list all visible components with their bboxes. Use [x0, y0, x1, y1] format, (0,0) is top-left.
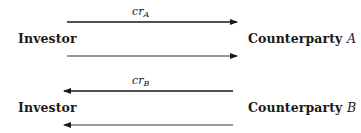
label-cr-a: crA	[132, 5, 149, 19]
counterparty-label: Counterparty	[248, 100, 342, 115]
investor-node-b: Investor	[18, 100, 77, 115]
counterparty-b-node: Counterparty B	[248, 100, 356, 115]
investor-node-a: Investor	[18, 31, 77, 46]
counterparty-var: B	[347, 100, 356, 115]
label-main: cr	[132, 5, 143, 18]
counterparty-label: Counterparty	[248, 31, 342, 46]
label-main: cr	[132, 74, 143, 87]
counterparty-a-node: Counterparty A	[248, 31, 356, 46]
counterparty-var: A	[347, 31, 356, 46]
label-sub: A	[143, 10, 149, 19]
label-sub: B	[143, 79, 149, 88]
label-cr-b: crB	[132, 74, 149, 88]
